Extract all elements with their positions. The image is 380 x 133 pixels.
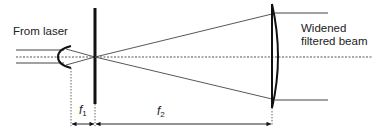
f1-subscript: 1 <box>82 109 86 118</box>
spatial-filter-diagram: From laser Widened filtered beam f1 f2 <box>0 0 380 133</box>
f2-subscript: 2 <box>160 110 164 119</box>
f1-label: f1 <box>79 103 87 118</box>
output-label-line2: filtered beam <box>301 35 367 48</box>
output-label-line1: Widened <box>301 22 346 35</box>
optics-drawing <box>0 0 380 133</box>
collimating-lens <box>272 4 278 108</box>
reference-lines <box>71 68 272 126</box>
from-laser-label: From laser <box>13 25 68 38</box>
f2-label: f2 <box>157 104 165 119</box>
